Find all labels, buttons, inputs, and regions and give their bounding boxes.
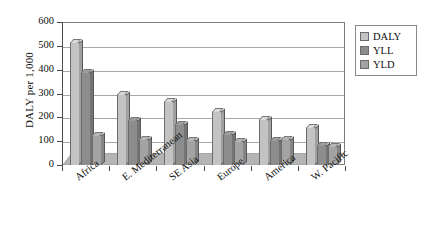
- bar-daly-3: [212, 111, 222, 165]
- legend-label-yld: YLD: [373, 59, 395, 70]
- legend-label-daly: DALY: [373, 31, 401, 42]
- x-axis-tick: [204, 166, 205, 171]
- x-axis-tick: [345, 166, 346, 171]
- y-axis-tick-label: 400: [22, 64, 54, 74]
- legend-swatch-yld: [360, 60, 369, 69]
- x-axis-tick: [251, 166, 252, 171]
- x-axis-tick: [156, 166, 157, 171]
- bar-daly-1: [117, 94, 127, 165]
- legend: DALY YLL YLD: [355, 25, 417, 76]
- y-axis-tick-label: 300: [22, 88, 54, 98]
- legend-label-yll: YLL: [373, 45, 393, 56]
- legend-item: YLL: [360, 43, 413, 57]
- bar-side-face: [101, 133, 105, 165]
- legend-swatch-daly: [360, 32, 369, 41]
- bar-yll-1: [128, 120, 138, 165]
- x-axis-tick: [298, 166, 299, 171]
- bar-daly-4: [259, 119, 269, 165]
- bar-daly-5: [306, 127, 316, 165]
- y-axis-tick-label: 100: [22, 135, 54, 145]
- legend-item: DALY: [360, 29, 413, 43]
- bar-yll-0: [81, 72, 91, 165]
- x-axis-tick: [62, 166, 63, 171]
- x-axis-tick: [109, 166, 110, 171]
- daly-bar-chart: DALY per 1,000 6005004003002001000 Afric…: [0, 0, 423, 248]
- y-axis-tick-label: 600: [22, 16, 54, 26]
- bar-series-layer: [62, 22, 345, 165]
- y-axis-tick-label: 500: [22, 40, 54, 50]
- bar-daly-0: [70, 42, 80, 165]
- legend-item: YLD: [360, 57, 413, 71]
- y-axis-tick-label: 200: [22, 111, 54, 121]
- y-axis-tick-label: 0: [22, 159, 54, 169]
- legend-swatch-yll: [360, 46, 369, 55]
